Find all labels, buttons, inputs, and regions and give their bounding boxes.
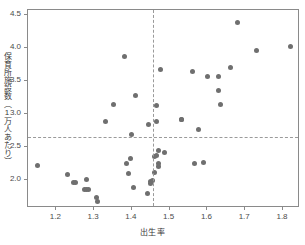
y-tick-label: 3.0 (0, 107, 21, 118)
x-tick-label: 1.2 (43, 211, 67, 222)
y-tick-mark (24, 113, 27, 114)
x-tick-label: 1.8 (270, 211, 294, 222)
scatter-plot-figure: 保育所施設数（1万人あたり） 出生率 2.02.53.03.54.04.51.2… (0, 0, 305, 245)
data-point (111, 102, 116, 107)
data-point (145, 191, 150, 196)
data-point (216, 74, 221, 79)
plot-area (27, 9, 299, 207)
x-tick-mark (244, 207, 245, 210)
x-tick-mark (131, 207, 132, 210)
data-point (228, 65, 233, 70)
vertical-reference-line (153, 10, 154, 206)
data-point (95, 199, 100, 204)
data-point (124, 161, 129, 166)
data-point (158, 67, 163, 72)
data-point (133, 93, 138, 98)
data-point (190, 69, 195, 74)
x-tick-mark (206, 207, 207, 210)
data-point (288, 44, 293, 49)
x-tick-mark (169, 207, 170, 210)
y-tick-label: 4.5 (0, 8, 21, 19)
y-tick-label: 3.5 (0, 74, 21, 85)
data-point (73, 180, 78, 185)
data-point (84, 177, 89, 182)
y-tick-label: 2.0 (0, 173, 21, 184)
x-tick-label: 1.3 (81, 211, 105, 222)
data-points-layer (28, 10, 298, 206)
data-point (103, 119, 108, 124)
data-point (122, 54, 127, 59)
y-tick-label: 2.5 (0, 140, 21, 151)
x-tick-mark (55, 207, 56, 210)
x-tick-label: 1.5 (157, 211, 181, 222)
data-point (131, 185, 136, 190)
horizontal-reference-line (28, 137, 298, 138)
data-point (192, 161, 197, 166)
data-point (65, 172, 70, 177)
y-tick-label: 4.0 (0, 41, 21, 52)
x-tick-label: 1.6 (194, 211, 218, 222)
data-point (179, 117, 184, 122)
y-tick-mark (24, 179, 27, 180)
x-axis-title: 出生率 (0, 226, 305, 237)
x-tick-label: 1.4 (119, 211, 143, 222)
data-point (205, 74, 210, 79)
data-point (128, 156, 133, 161)
x-tick-label: 1.7 (232, 211, 256, 222)
y-tick-mark (24, 80, 27, 81)
y-tick-mark (24, 47, 27, 48)
x-tick-mark (93, 207, 94, 210)
data-point (218, 102, 223, 107)
data-point (86, 187, 91, 192)
data-point (126, 171, 131, 176)
data-point (235, 20, 240, 25)
data-point (154, 103, 159, 108)
data-point (216, 88, 221, 93)
y-tick-mark (24, 14, 27, 15)
data-point (162, 150, 167, 155)
data-point (156, 161, 161, 166)
data-point (254, 48, 259, 53)
data-point (154, 153, 159, 158)
y-tick-mark (24, 146, 27, 147)
data-point (156, 148, 161, 153)
data-point (146, 122, 151, 127)
data-point (196, 127, 201, 132)
data-point (35, 163, 40, 168)
data-point (154, 119, 159, 124)
x-tick-mark (282, 207, 283, 210)
data-point (201, 160, 206, 165)
